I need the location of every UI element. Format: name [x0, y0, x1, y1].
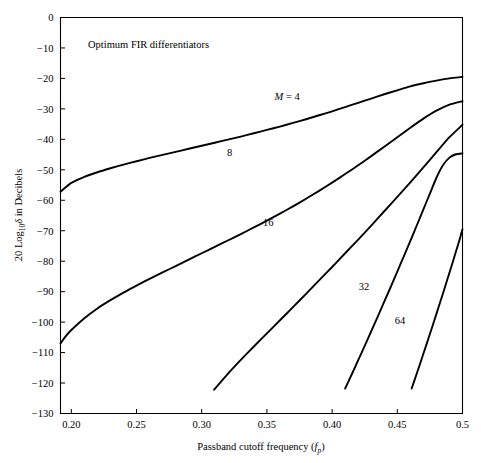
data-curves	[61, 77, 463, 390]
y-tick-label: −90	[37, 286, 53, 297]
x-tick-label: 0.5	[456, 419, 469, 430]
curve-label-32: 32	[359, 281, 370, 292]
x-tick-label: 0.20	[62, 419, 80, 430]
y-tick-label: −30	[37, 104, 53, 115]
y-tick-label: −50	[37, 165, 53, 176]
curve-label-8: 8	[227, 147, 232, 158]
y-tick-label: −10	[37, 43, 53, 54]
x-tick-label: 0.35	[258, 419, 276, 430]
curve-label-rest: = 4	[283, 91, 300, 102]
plot-annotation: Optimum FIR differentiators	[88, 39, 209, 50]
x-tick-label: 0.45	[388, 419, 406, 430]
x-axis-title-main: Passband cutoff frequency (	[197, 441, 315, 453]
y-axis-ticks	[61, 18, 66, 414]
x-axis-tick-labels: 0.200.250.300.350.400.450.5	[62, 419, 469, 430]
curve-label-16: 16	[263, 217, 274, 228]
plot-axes-frame	[61, 18, 463, 414]
y-tick-label: 0	[48, 12, 53, 23]
curve-label-64: 64	[395, 315, 406, 326]
curve-labels: M = 48163264	[227, 91, 406, 326]
y-tick-label: −100	[32, 317, 54, 328]
y-tick-label: −20	[37, 73, 53, 84]
x-tick-label: 0.25	[127, 419, 145, 430]
x-axis-ticks	[71, 409, 462, 414]
y-tick-label: −120	[32, 378, 54, 389]
plot-border	[61, 18, 463, 414]
curve-8	[61, 101, 463, 343]
curve-64	[412, 229, 463, 388]
y-tick-label: −60	[37, 195, 53, 206]
chart-figure: 0.200.250.300.350.400.450.5 0−10−20−30−4…	[0, 0, 481, 463]
x-tick-label: 0.40	[323, 419, 341, 430]
y-tick-label: −70	[37, 226, 53, 237]
y-tick-label: −110	[32, 347, 53, 358]
x-axis-title: Passband cutoff frequency (fp)	[197, 441, 325, 455]
y-axis-tick-labels: 0−10−20−30−40−50−60−70−80−90−100−110−120…	[32, 12, 54, 419]
y-axis-title: 20 Log10δ in Decibels	[13, 169, 27, 261]
y-axis-title-suffix: in Decibels	[13, 169, 24, 219]
optimum-fir-differentiators-chart: 0.200.250.300.350.400.450.5 0−10−20−30−4…	[0, 0, 481, 463]
x-tick-label: 0.30	[193, 419, 211, 430]
curve-label-M4: M = 4	[274, 91, 301, 102]
y-tick-label: −80	[37, 256, 53, 267]
y-axis-title-prefix: 20 Log	[13, 230, 24, 261]
y-tick-label: −40	[37, 134, 53, 145]
y-tick-label: −130	[32, 408, 54, 419]
x-axis-title-close: )	[321, 441, 325, 453]
